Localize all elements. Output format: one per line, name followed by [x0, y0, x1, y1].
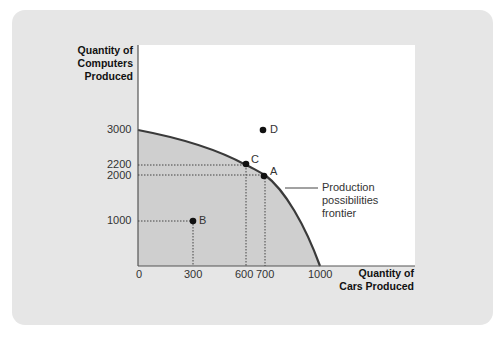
y-axis-title: Quantity of Computers Produced — [78, 44, 133, 83]
x-tick-label: 600 — [235, 268, 253, 280]
point-a-label: A — [270, 165, 277, 177]
ppf-annotation: Production possibilities frontier — [322, 181, 378, 220]
point-d-label: D — [270, 123, 278, 135]
ppf-annotation-line: frontier — [322, 207, 378, 220]
x-axis-title-line: Quantity of — [339, 267, 414, 280]
point-d-marker — [260, 127, 267, 134]
x-tick-label: 0 — [136, 268, 142, 280]
x-axis-title-line: Cars Produced — [339, 280, 414, 293]
x-tick-label: 700 — [256, 268, 274, 280]
point-b-label: B — [199, 214, 206, 226]
y-tick-label: 2000 — [107, 169, 131, 181]
point-b-marker — [190, 218, 197, 225]
ppf-annotation-line: Production — [322, 181, 378, 194]
y-tick-label: 1000 — [107, 214, 131, 226]
point-c-marker — [243, 161, 250, 168]
point-a-marker — [261, 173, 268, 180]
x-axis-title: Quantity of Cars Produced — [339, 267, 414, 293]
y-tick-label: 3000 — [107, 123, 131, 135]
x-tick-label: 300 — [184, 268, 202, 280]
point-c-label: C — [251, 153, 259, 165]
y-axis-title-line: Produced — [78, 70, 133, 83]
y-axis-title-line: Computers — [78, 57, 133, 70]
y-axis-title-line: Quantity of — [78, 44, 133, 57]
x-tick-label: 1000 — [308, 268, 332, 280]
ppf-chart — [0, 0, 504, 338]
ppf-annotation-line: possibilities — [322, 194, 378, 207]
